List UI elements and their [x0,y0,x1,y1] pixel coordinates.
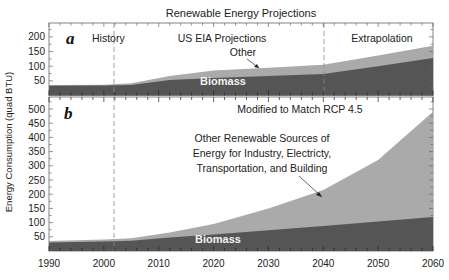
y-tick-label: 500 [28,104,45,115]
x-axis-labels: 19902000201020202030204020502060 [38,258,445,269]
y-tick-label: 50 [34,75,46,86]
y-tick-label: 300 [28,160,45,171]
y-tick-label: 200 [28,31,45,42]
region-eia-label: US EIA Projections [178,32,267,44]
y-tick-label: 150 [28,203,45,214]
renewable-energy-chart: Renewable Energy Projections Energy Cons… [0,0,449,280]
y-tick-label: 400 [28,132,45,143]
panel-a-letter: a [66,29,75,48]
y-tick-label: 200 [28,189,45,200]
x-tick-label: 2000 [93,258,116,269]
x-tick-label: 2020 [202,258,225,269]
panel-b: 50100150200250300350400450500 b Modified… [28,97,433,251]
y-tick-label: 250 [28,175,45,186]
y-tick-label: 450 [28,118,45,129]
panel-a: 50100150200 a History US EIA Projections… [28,23,433,96]
region-extrapolation-label: Extrapolation [351,32,412,44]
x-tick-label: 1990 [38,258,61,269]
other-label-b-line2: Energy for Industry, Electricty, [193,147,332,159]
biomass-label-a: Biomass [200,75,246,87]
x-tick-label: 2040 [312,258,335,269]
y-tick-label: 350 [28,146,45,157]
y-tick-label: 150 [28,46,45,57]
y-tick-label: 50 [34,231,46,242]
other-label-b-line1: Other Renewable Sources of [195,132,330,144]
region-history-label: History [92,32,125,44]
chart-title: Renewable Energy Projections [166,7,317,19]
other-label-b-line3: Transportation, and Building [197,162,328,174]
y-tick-label: 100 [28,61,45,72]
biomass-label-b: Biomass [195,233,241,245]
panel-b-subtitle: Modified to Match RCP 4.5 [237,103,362,115]
panel-b-letter: b [64,104,73,123]
other-label-a: Other [230,46,257,58]
x-tick-label: 2060 [422,258,445,269]
x-tick-label: 2050 [367,258,390,269]
y-tick-label: 100 [28,217,45,228]
y-axis-label: Energy Consumption (quad BTU) [3,72,14,212]
x-tick-label: 2030 [257,258,280,269]
x-tick-label: 2010 [148,258,171,269]
